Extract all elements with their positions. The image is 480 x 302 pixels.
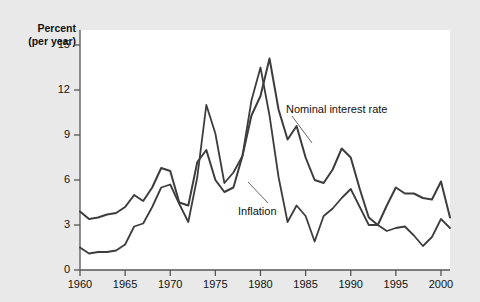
y-tick-label: 15 — [44, 38, 70, 50]
x-tick-label: 1990 — [329, 278, 373, 290]
x-tick-label: 1965 — [103, 278, 147, 290]
figure-container: Percent (per year) 03691215 196019651970… — [0, 0, 480, 302]
y-tick-label: 0 — [44, 263, 70, 275]
x-tick-label: 1980 — [238, 278, 282, 290]
axes-group — [74, 30, 450, 276]
x-tick-label: 2000 — [419, 278, 463, 290]
series-line-inflation — [80, 68, 450, 254]
series-group — [80, 59, 450, 254]
series-label-inflation: Inflation — [238, 205, 277, 217]
x-tick-label: 1960 — [58, 278, 102, 290]
y-tick-label: 9 — [44, 128, 70, 140]
y-tick-label: 3 — [44, 218, 70, 230]
x-tick-label: 1995 — [374, 278, 418, 290]
leader-lines-group — [248, 116, 312, 203]
series-label-nominal: Nominal interest rate — [286, 103, 388, 115]
x-tick-label: 1985 — [284, 278, 328, 290]
chart-svg — [0, 0, 480, 302]
leader-line-inflation — [248, 182, 268, 203]
y-tick-label: 12 — [44, 83, 70, 95]
x-tick-label: 1970 — [148, 278, 192, 290]
y-tick-label: 6 — [44, 173, 70, 185]
x-tick-label: 1975 — [193, 278, 237, 290]
